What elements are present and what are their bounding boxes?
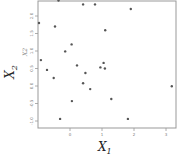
data-point: [84, 72, 86, 74]
data-point: [70, 43, 72, 45]
y-axis-label: X2: [3, 65, 19, 80]
data-point: [89, 88, 91, 90]
x-tick-label: 1: [101, 132, 104, 137]
data-point: [76, 64, 78, 66]
y-tick-label: 0.0: [29, 82, 34, 89]
data-point: [59, 118, 61, 120]
plot-frame: [38, 1, 176, 128]
x-tick-label: 3: [165, 132, 168, 137]
y-tick-label: -0.5: [29, 99, 34, 107]
y-tick-label: 1.5: [29, 30, 34, 37]
data-point: [171, 85, 173, 87]
data-point: [127, 118, 129, 120]
data-point: [102, 62, 104, 64]
data-point: [64, 50, 66, 52]
data-point: [99, 66, 101, 68]
x-axis-label-main: X: [97, 140, 107, 154]
y-tick-label: 2.0: [29, 12, 34, 19]
data-point: [110, 98, 112, 100]
y-tick-label: 0.5: [29, 65, 34, 72]
y-axis-label-main: X: [3, 70, 17, 80]
data-point: [54, 25, 56, 27]
data-point: [38, 22, 40, 24]
data-point: [71, 100, 73, 102]
y-axis-ticks: 2.01.51.00.50.0-0.5-1.0: [29, 12, 38, 125]
data-point: [46, 69, 48, 71]
x-tick-label: 0: [69, 132, 72, 137]
y-tick-label: -1.0: [29, 117, 34, 125]
scatter-chart: 0123 2.01.51.00.50.0-0.5-1.0 X1 X2 X2: [0, 0, 181, 158]
x-axis-label-sub: 1: [107, 147, 112, 156]
y-axis-inner-label: X2: [21, 48, 28, 57]
y-axis-label-sub: 2: [10, 65, 19, 71]
data-point: [40, 59, 42, 61]
data-point: [94, 3, 96, 5]
x-axis-label: X1: [97, 140, 112, 156]
data-point: [104, 29, 106, 31]
data-point: [104, 67, 106, 69]
data-point: [130, 8, 132, 10]
y-tick-label: 1.0: [29, 47, 34, 54]
data-point: [82, 3, 84, 5]
x-axis-ticks: 0123: [69, 128, 168, 137]
x-tick-label: 2: [133, 132, 136, 137]
data-point: [53, 77, 55, 79]
data-point: [82, 82, 84, 84]
